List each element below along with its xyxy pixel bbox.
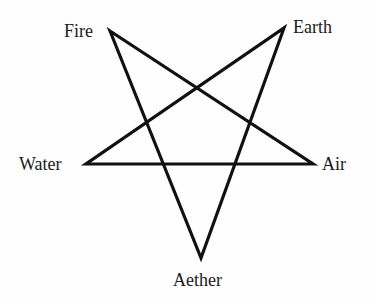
vertex-label-water: Water: [19, 155, 62, 173]
vertex-label-earth: Earth: [293, 18, 332, 36]
pentagram-diagram: Fire Earth Water Air Aether: [0, 0, 371, 305]
vertex-label-aether: Aether: [173, 271, 222, 289]
vertex-label-fire: Fire: [64, 22, 93, 40]
pentagram-star: [0, 0, 371, 305]
vertex-label-air: Air: [322, 155, 346, 173]
pentagram-outline: [86, 28, 313, 258]
